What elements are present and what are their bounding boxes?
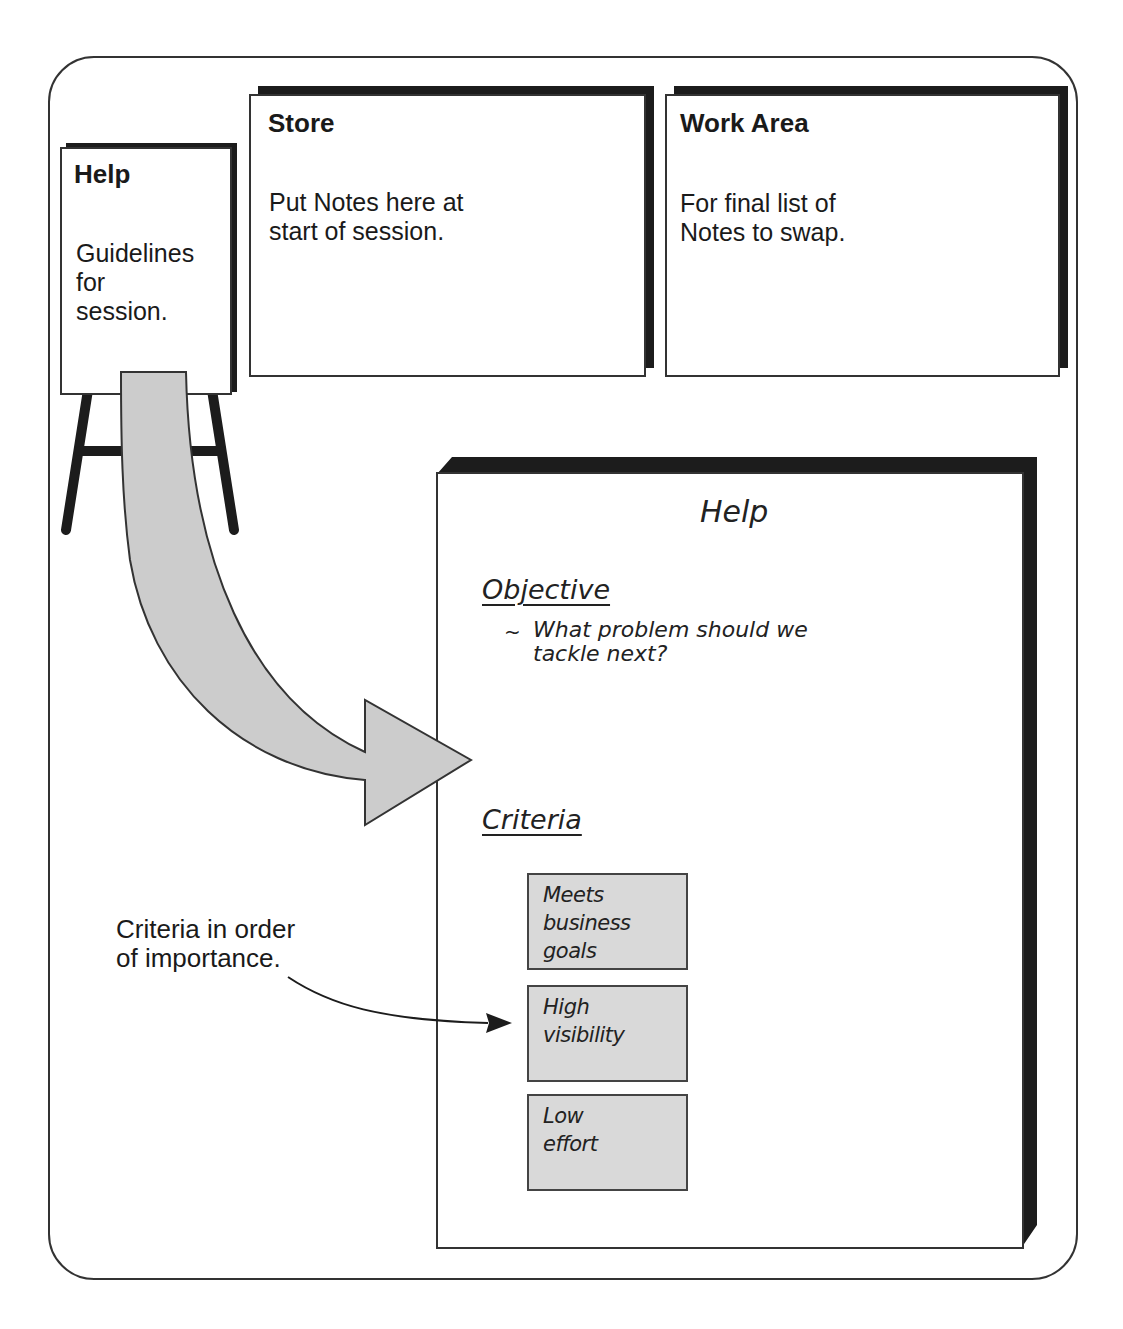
annotation-pointer-arrow-icon bbox=[0, 0, 1123, 1329]
